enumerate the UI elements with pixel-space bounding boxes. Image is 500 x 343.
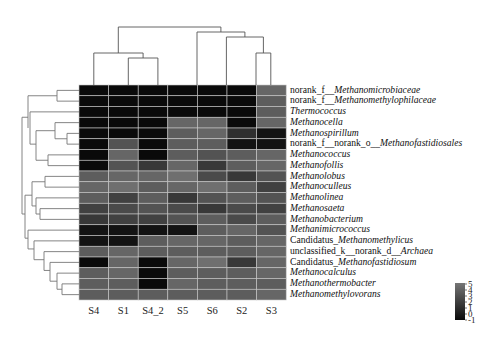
column-label: S2 (227, 305, 257, 316)
heatmap-cell (79, 279, 109, 290)
heatmap-cell (109, 96, 139, 107)
heatmap-cell (168, 117, 198, 128)
heatmap-cell (197, 268, 227, 279)
row-label-prefix: norank_f__norank_o__ (290, 137, 380, 148)
row-label-taxon: Methanomicrobiaceae (334, 84, 420, 95)
heatmap-cell (138, 182, 168, 193)
heatmap-cell (257, 160, 287, 171)
heatmap-cell (257, 203, 287, 214)
heatmap-cell (109, 117, 139, 128)
heatmap-cell (138, 246, 168, 257)
heatmap-cell (109, 236, 139, 247)
row-label-prefix: Candidatus_ (290, 234, 338, 245)
heatmap-cell (257, 257, 287, 268)
heatmap-cell (79, 85, 109, 96)
heatmap-cell (257, 182, 287, 193)
heatmap-cell (197, 107, 227, 118)
heatmap-cell (109, 85, 139, 96)
heatmap-cell (168, 225, 198, 236)
column-label: S4 (79, 305, 109, 316)
heatmap-cell (197, 246, 227, 257)
heatmap-cell (197, 203, 227, 214)
heatmap-cell (257, 85, 287, 96)
heatmap-cell (227, 182, 257, 193)
heatmap-cell (79, 182, 109, 193)
heatmap-cell (227, 289, 257, 300)
row-label-taxon: Methanobacterium (290, 213, 363, 224)
row-label-taxon: Methanosaeta (290, 202, 344, 213)
heatmap-cell (79, 107, 109, 118)
heatmap-cell (227, 246, 257, 257)
row-label-prefix: norank_f__ (290, 94, 334, 105)
row-label-prefix: norank_f__ (290, 84, 334, 95)
heatmap-cell (168, 236, 198, 247)
heatmap-cell (79, 193, 109, 204)
colorbar (455, 283, 465, 320)
heatmap-cell (227, 257, 257, 268)
heatmap-cells (79, 85, 286, 300)
heatmap-cell (109, 182, 139, 193)
heatmap-cell (138, 225, 168, 236)
heatmap-cell (138, 289, 168, 300)
column-label: S5 (168, 305, 198, 316)
row-label-taxon: Methanomethylicus (338, 234, 413, 245)
heatmap-cell (168, 289, 198, 300)
heatmap-cell (138, 85, 168, 96)
heatmap-cell (79, 203, 109, 214)
column-label: S6 (197, 305, 227, 316)
row-label-taxon: Methanoculleus (290, 180, 351, 191)
heatmap-cell (79, 289, 109, 300)
row-label-taxon: Methanocalculus (290, 266, 356, 277)
heatmap-cell (168, 182, 198, 193)
heatmap-cell (168, 107, 198, 118)
heatmap-cell (79, 225, 109, 236)
heatmap-cell (109, 246, 139, 257)
heatmap-cell (197, 257, 227, 268)
heatmap-cell (227, 160, 257, 171)
heatmap-cell (227, 150, 257, 161)
row-label-prefix: Candidatus_ (290, 256, 338, 267)
heatmap-cell (197, 96, 227, 107)
heatmap-cell (197, 193, 227, 204)
heatmap-cell (168, 257, 198, 268)
row-label-taxon: Methanothermobacter (290, 277, 376, 288)
heatmap-cell (79, 160, 109, 171)
row-label-prefix: unclassified_k__norank_d__ (290, 245, 401, 256)
heatmap-cell (168, 96, 198, 107)
heatmap-cell (227, 225, 257, 236)
heatmap-cell (197, 182, 227, 193)
row-label-taxon: Methanospirillum (290, 127, 359, 138)
heatmap-cell (227, 128, 257, 139)
heatmap-cell (109, 139, 139, 150)
heatmap-cell (257, 279, 287, 290)
row-label-taxon: Methanolobus (290, 170, 345, 181)
heatmap-cell (257, 289, 287, 300)
heatmap-cell (257, 236, 287, 247)
column-label: S1 (109, 305, 139, 316)
heatmap-cell (138, 160, 168, 171)
heatmap-cell (257, 268, 287, 279)
heatmap-cell (197, 160, 227, 171)
heatmap-cell (227, 279, 257, 290)
heatmap-cell (138, 96, 168, 107)
heatmap-cell (138, 139, 168, 150)
heatmap-cell (257, 171, 287, 182)
heatmap-cell (197, 171, 227, 182)
row-label-taxon: Methanolinea (290, 191, 343, 202)
heatmap-cell (138, 268, 168, 279)
heatmap-cell (197, 289, 227, 300)
heatmap-cell (138, 236, 168, 247)
heatmap-cell (197, 214, 227, 225)
heatmap-cell (168, 279, 198, 290)
heatmap-cell (257, 139, 287, 150)
heatmap-cell (138, 257, 168, 268)
heatmap-cell (227, 214, 257, 225)
heatmap-cell (79, 128, 109, 139)
heatmap-cell (227, 236, 257, 247)
row-label-taxon: Methanofastidiosales (380, 137, 462, 148)
heatmap-cell (79, 214, 109, 225)
heatmap-cell (109, 193, 139, 204)
heatmap-cell (227, 139, 257, 150)
heatmap-cell (257, 117, 287, 128)
heatmap-cell (138, 193, 168, 204)
